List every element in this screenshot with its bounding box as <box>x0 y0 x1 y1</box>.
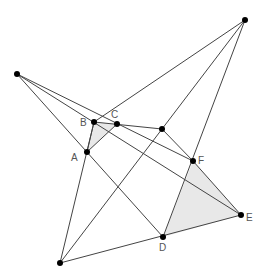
geometry-diagram: A B C D E F <box>0 0 265 279</box>
label-c: C <box>111 109 118 120</box>
label-e: E <box>246 212 253 223</box>
label-f: F <box>198 155 204 166</box>
label-b: B <box>80 117 87 128</box>
points <box>14 17 248 266</box>
label-a: A <box>71 152 78 163</box>
lines <box>17 20 245 263</box>
label-d: D <box>159 242 166 253</box>
